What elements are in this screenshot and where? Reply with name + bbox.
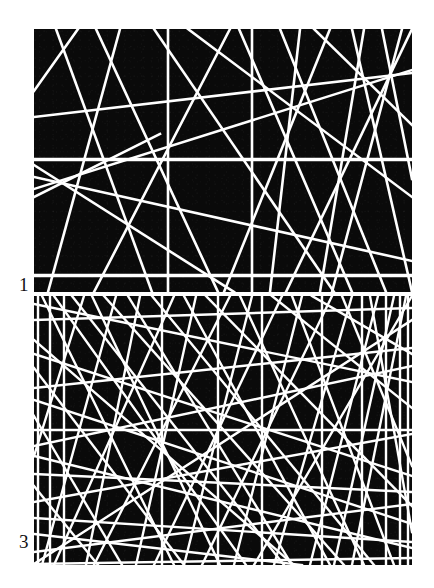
panel-1-label: 1 — [19, 275, 29, 294]
panel-1-line-process — [34, 29, 412, 292]
panel-3-svg — [34, 296, 412, 565]
panel-3-line-process — [34, 296, 412, 565]
panel-3-label: 3 — [19, 532, 29, 551]
figure-root: 1 3 — [0, 0, 434, 588]
panel-1-svg — [34, 29, 412, 292]
